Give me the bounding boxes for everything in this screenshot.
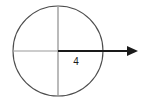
radius-length-label: 4	[73, 56, 79, 67]
circle-diagram: 4	[0, 0, 145, 105]
canvas-background	[0, 0, 145, 105]
figure-canvas: 4	[0, 0, 145, 105]
